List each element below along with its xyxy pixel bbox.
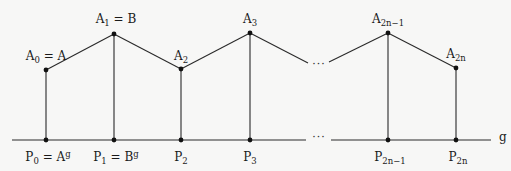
label-a3: A3 [243,13,257,25]
label-p2: P2 [174,151,188,163]
point-a2 [179,67,184,72]
point-p2 [179,138,184,143]
label-a2n: A2n [446,48,466,60]
segment-ellipsis-a2n-1 [329,33,388,62]
label-a1: A1 = B [96,13,137,25]
label-p0: P0 = Ag [25,151,70,163]
point-p1 [112,138,117,143]
point-p2n-1 [386,138,391,143]
label-a0: A0 = A [26,50,66,62]
point-p3 [248,138,253,143]
point-p2n [454,138,459,143]
point-a0 [44,68,49,73]
point-a3 [248,31,253,36]
segment-a3-ellipsis [250,33,308,63]
ellipsis-top: ··· [312,58,326,71]
ellipsis-bottom: ··· [312,131,326,144]
label-p2n-1: P2n−1 [374,151,406,163]
label-p1: P1 = Bg [93,151,138,163]
point-p0 [44,138,49,143]
point-a1 [112,32,117,37]
label-a2: A2 [174,50,188,62]
label-a2n-1: A2n−1 [372,13,404,25]
label-p2n: P2n [449,151,468,163]
polyline-projection-diagram: ··· ··· g A0 = A A1 = B A2 A3 A2n−1 A2n … [0,0,511,171]
segment-a1-a2 [114,34,181,69]
baseline-label-g: g [499,131,507,143]
point-a2n [454,66,459,71]
label-p3: P3 [243,151,257,163]
segment-a2-a3 [181,33,250,69]
point-a2n-1 [386,31,391,36]
